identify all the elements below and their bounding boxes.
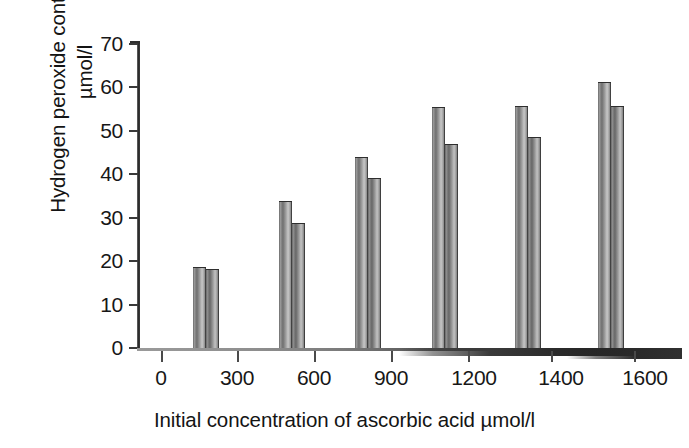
bar-1600-series-1 — [598, 82, 611, 348]
y-tick-60 — [129, 86, 138, 88]
bar-1200-series-2 — [445, 144, 458, 348]
y-axis-tick-labels: 0 10 20 30 40 50 60 70 — [0, 44, 137, 348]
x-axis-baseline-shadow-2 — [567, 348, 682, 359]
bar-300-series-1 — [193, 267, 206, 348]
x-tick-1600 — [634, 351, 636, 362]
bar-300-series-2 — [206, 269, 219, 348]
y-tick-label-50: 50 — [100, 119, 123, 143]
bar-chart-figure: Hydrogen peroxide content of solution µm… — [0, 0, 689, 448]
bar-1600-series-2 — [611, 106, 624, 348]
bar-600-series-2 — [292, 223, 305, 348]
y-tick-40 — [129, 173, 138, 175]
y-tick-label-20: 20 — [100, 249, 123, 273]
y-tick-70 — [129, 43, 138, 45]
plot-area — [137, 44, 682, 348]
bar-900-series-1 — [355, 157, 368, 348]
bar-1200-series-1 — [432, 107, 445, 348]
x-tick-0 — [161, 351, 163, 362]
y-tick-label-40: 40 — [100, 162, 123, 186]
x-axis-title: Initial concentration of ascorbic acid µ… — [0, 408, 689, 432]
y-tick-50 — [129, 130, 138, 132]
x-tick-label-300: 300 — [220, 366, 254, 390]
y-tick-label-10: 10 — [100, 293, 123, 317]
x-axis-tick-labels: 0 300 600 900 1200 1400 1600 — [137, 366, 682, 396]
y-tick-10 — [129, 304, 138, 306]
x-tick-label-1200: 1200 — [451, 366, 497, 390]
y-tick-30 — [129, 217, 138, 219]
x-tick-900 — [391, 351, 393, 362]
x-tick-300 — [237, 351, 239, 362]
x-tick-label-900: 900 — [374, 366, 408, 390]
x-tick-1200 — [468, 351, 470, 362]
bar-1400-series-2 — [528, 137, 541, 348]
x-tick-1400 — [551, 351, 553, 362]
y-tick-label-30: 30 — [100, 206, 123, 230]
x-tick-label-1600: 1600 — [622, 366, 668, 390]
bar-900-series-2 — [368, 178, 381, 348]
y-tick-label-70: 70 — [100, 32, 123, 56]
y-tick-20 — [129, 260, 138, 262]
x-tick-label-600: 600 — [297, 366, 331, 390]
bar-600-series-1 — [279, 201, 292, 348]
x-tick-label-0: 0 — [155, 366, 166, 390]
x-tick-600 — [314, 351, 316, 362]
y-tick-label-60: 60 — [100, 75, 123, 99]
bar-1400-series-1 — [515, 106, 528, 348]
x-tick-label-1400: 1400 — [538, 366, 584, 390]
y-tick-label-0: 0 — [112, 336, 123, 360]
